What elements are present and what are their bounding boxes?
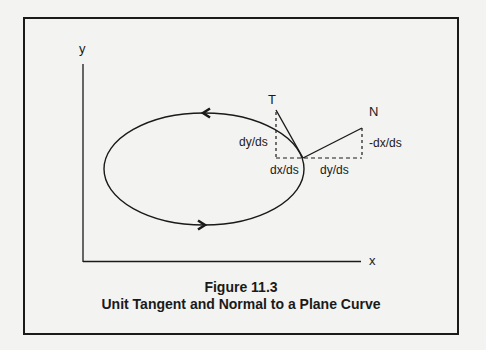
tangent-vertical-label: dy/ds [239, 136, 268, 148]
normal-horizontal-label: dy/ds [320, 164, 349, 176]
y-axis-label: y [79, 42, 86, 55]
figure-canvas: y x T N dy/ds dx/ds dy/ds -dx/ds Figure … [0, 0, 486, 350]
tangent-horizontal-label: dx/ds [270, 164, 299, 176]
figure-number: Figure 11.3 [23, 280, 459, 295]
normal-label: N [369, 105, 378, 118]
normal-vector [303, 128, 362, 158]
figure-title: Unit Tangent and Normal to a Plane Curve [23, 297, 459, 312]
normal-vertical-label: -dx/ds [369, 137, 402, 149]
x-axis-label: x [369, 254, 376, 267]
tangent-label: T [268, 93, 276, 106]
tangent-vector [276, 110, 303, 158]
